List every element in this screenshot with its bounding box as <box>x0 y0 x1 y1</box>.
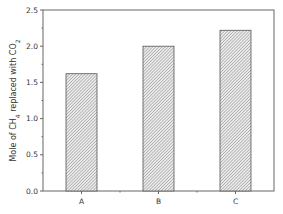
plot-area: 0.00.51.01.52.02.5ABC <box>26 6 274 206</box>
bar-b <box>143 46 174 191</box>
x-tick-label: B <box>156 197 161 206</box>
bar-c <box>220 30 251 191</box>
bar-chart: 0.00.51.01.52.02.5ABC Mole of CH4 replac… <box>0 0 283 214</box>
y-tick-label: 0.0 <box>26 187 38 196</box>
x-tick-label: A <box>79 197 85 206</box>
y-tick-label: 1.5 <box>26 78 38 87</box>
y-axis-label: Mole of CH4 replaced with CO2 <box>9 39 21 161</box>
y-axis-title: Mole of CH4 replaced with CO2 <box>9 39 21 161</box>
x-tick-label: C <box>233 197 238 206</box>
y-tick-label: 2.5 <box>26 6 38 15</box>
y-tick-label: 0.5 <box>26 150 38 159</box>
bar-a <box>66 74 97 191</box>
y-tick-label: 1.0 <box>26 114 38 123</box>
y-tick-label: 2.0 <box>26 42 38 51</box>
